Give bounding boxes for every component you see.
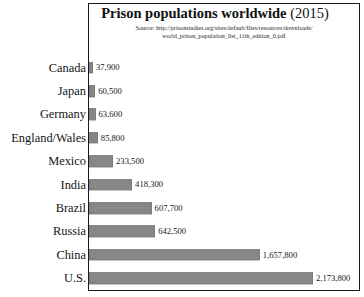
bar-row: India418,300 xyxy=(0,173,364,196)
bar-wrapper: 642,500 xyxy=(89,226,186,238)
bar-row: Mexico233,500 xyxy=(0,150,364,173)
category-label: Germany xyxy=(40,107,86,121)
bar-row: England/Wales85,800 xyxy=(0,126,364,149)
bar-value-label: 607,700 xyxy=(155,203,183,213)
bar-wrapper: 233,500 xyxy=(89,156,144,168)
value-bar xyxy=(89,249,260,261)
bar-wrapper: 418,300 xyxy=(89,179,163,191)
category-label: China xyxy=(56,248,86,262)
value-bar xyxy=(89,226,155,238)
value-bar xyxy=(89,202,152,214)
category-label: Mexico xyxy=(48,154,86,168)
category-label: Japan xyxy=(58,84,86,98)
bar-value-label: 37,900 xyxy=(96,63,120,73)
category-label: India xyxy=(61,178,86,192)
value-bar xyxy=(89,85,95,97)
bar-rows: Canada37,900Japan60,500Germany63,600Engl… xyxy=(0,56,364,290)
bar-value-label: 233,500 xyxy=(116,156,144,166)
bar-wrapper: 37,900 xyxy=(89,62,120,74)
bar-row: Brazil607,700 xyxy=(0,196,364,219)
bar-value-label: 2,173,800 xyxy=(316,273,350,283)
bar-row: Germany63,600 xyxy=(0,103,364,126)
value-bar xyxy=(89,156,113,168)
value-bar xyxy=(89,179,132,191)
category-label: U.S. xyxy=(64,271,86,285)
bar-row: Canada37,900 xyxy=(0,56,364,79)
bar-row: Russia642,500 xyxy=(0,220,364,243)
bar-row: U.S.2,173,800 xyxy=(0,267,364,290)
bar-row: China1,657,800 xyxy=(0,243,364,266)
category-label: Brazil xyxy=(56,201,86,215)
value-bar xyxy=(89,272,313,284)
bar-wrapper: 85,800 xyxy=(89,132,124,144)
category-label: Canada xyxy=(49,61,86,75)
bar-wrapper: 1,657,800 xyxy=(89,249,297,261)
bar-wrapper: 607,700 xyxy=(89,202,183,214)
bar-wrapper: 63,600 xyxy=(89,109,122,121)
bar-value-label: 60,500 xyxy=(98,86,122,96)
bar-wrapper: 2,173,800 xyxy=(89,272,350,284)
category-label: Russia xyxy=(53,224,86,238)
value-bar xyxy=(89,62,93,74)
bar-value-label: 85,800 xyxy=(101,133,125,143)
value-bar xyxy=(89,132,98,144)
bar-value-label: 63,600 xyxy=(99,109,123,119)
value-bar xyxy=(89,109,96,121)
bar-row: Japan60,500 xyxy=(0,79,364,102)
bar-wrapper: 60,500 xyxy=(89,85,122,97)
bar-value-label: 642,500 xyxy=(158,226,186,236)
bar-value-label: 1,657,800 xyxy=(263,250,297,260)
bar-value-label: 418,300 xyxy=(135,180,163,190)
category-label: England/Wales xyxy=(11,131,86,145)
prison-population-chart: Prison populations worldwide (2015) Sour… xyxy=(0,0,364,297)
